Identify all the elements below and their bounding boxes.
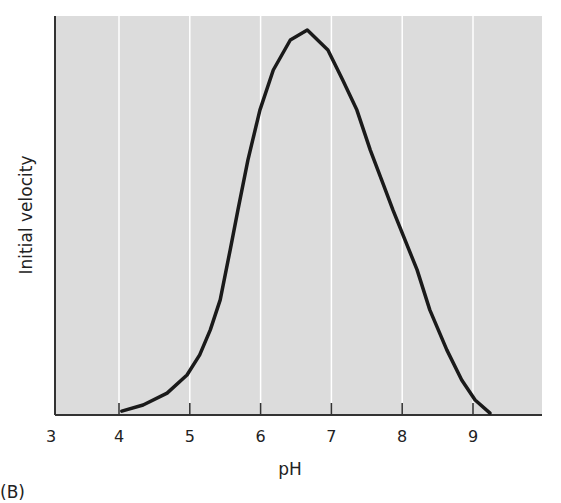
x-axis-tick-labels: 3456789 — [46, 427, 478, 446]
x-tick-label: 3 — [46, 427, 56, 446]
ph-velocity-chart: 3456789 pH Initial velocity — [0, 0, 561, 503]
x-axis-title: pH — [278, 459, 302, 479]
x-tick-label: 9 — [468, 427, 478, 446]
x-tick-label: 6 — [256, 427, 266, 446]
plot-area — [55, 16, 542, 415]
x-tick-label: 5 — [185, 427, 195, 446]
y-axis-title: Initial velocity — [16, 156, 36, 275]
x-tick-label: 8 — [397, 427, 407, 446]
x-tick-label: 7 — [326, 427, 336, 446]
x-tick-label: 4 — [114, 427, 124, 446]
panel-label: (B) — [0, 482, 25, 502]
